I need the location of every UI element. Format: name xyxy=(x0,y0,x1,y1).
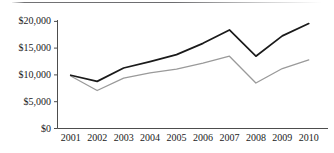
y-axis-tick-label: $15,000 xyxy=(19,43,52,53)
chart-axes xyxy=(54,20,328,129)
y-axis-tick-label: $0 xyxy=(41,124,51,134)
y-axis-ticks xyxy=(54,21,58,128)
x-axis-tick-label: 2010 xyxy=(294,133,324,143)
y-axis-tick-label: $5,000 xyxy=(24,97,52,107)
chart-figure: $0$5,000$10,000$15,000$20,000 2001200220… xyxy=(0,0,334,153)
chart-series-group xyxy=(71,24,309,91)
y-axis-tick-label: $20,000 xyxy=(19,16,52,26)
series-line-lower xyxy=(71,56,309,90)
series-line-upper xyxy=(71,24,309,82)
y-axis-tick-label: $10,000 xyxy=(19,70,52,80)
